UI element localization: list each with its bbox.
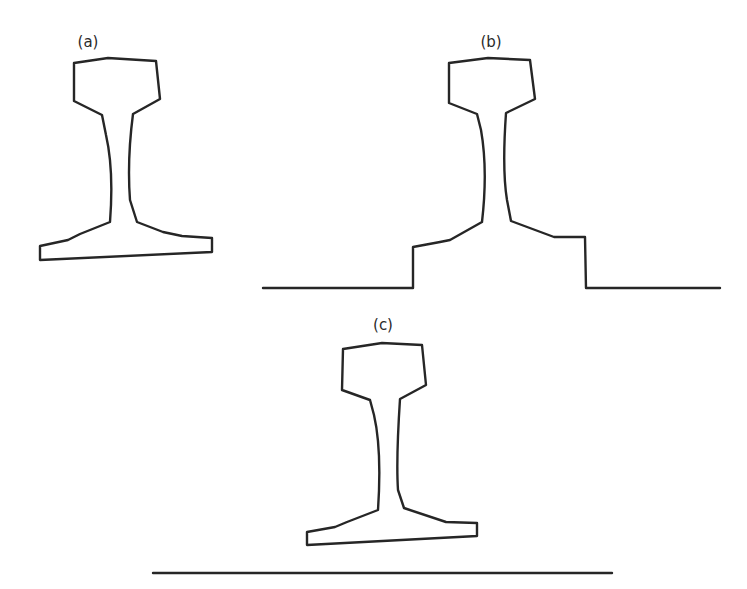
rail-c-outline [307,343,477,545]
rail-c [153,343,612,573]
panel-c-label: (c) [373,316,393,334]
rail-b-outline [263,58,720,288]
diagram-svg [0,0,747,589]
panel-a-label: (a) [78,33,99,51]
panel-b-label: (b) [480,33,501,51]
rail-sections-figure: (a) (b) (c) [0,0,747,589]
rail-b [263,58,720,288]
rail-a [40,58,212,260]
rail-a-outline [40,58,212,260]
